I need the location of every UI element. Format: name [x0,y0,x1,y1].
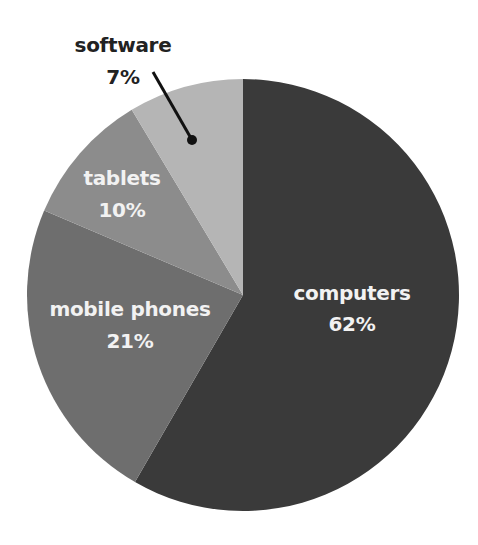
label-software-name: software [75,33,172,57]
label-tablets-pct: 10% [99,198,146,222]
software-leader-dot [187,135,197,145]
pie-chart: computers 62% mobile phones 21% tablets … [0,0,478,545]
label-mobile-name: mobile phones [49,297,210,321]
label-computers-pct: 62% [329,312,376,336]
label-computers-name: computers [293,281,410,305]
label-software-pct: 7% [106,65,140,89]
label-mobile-pct: 21% [107,329,154,353]
label-tablets-name: tablets [83,166,160,190]
